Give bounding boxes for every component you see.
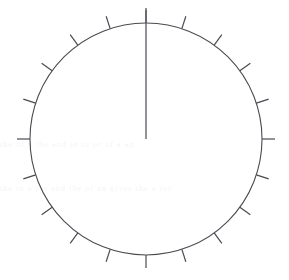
tick-mark [106, 249, 110, 261]
tick-mark [240, 207, 251, 215]
tick-mark [70, 233, 78, 244]
tick-mark [106, 16, 110, 28]
tick-mark [42, 63, 53, 71]
tick-mark [214, 35, 222, 46]
tick-mark [240, 63, 251, 71]
tick-mark [256, 175, 268, 179]
tick-mark [256, 99, 268, 103]
tick-mark [214, 233, 222, 244]
dial-diagram [0, 0, 289, 280]
tick-mark [23, 175, 35, 179]
tick-mark [182, 249, 186, 261]
tick-mark [23, 99, 35, 103]
tick-mark [42, 207, 53, 215]
dial-figure: the of a the and in to or of a an the in… [0, 0, 289, 280]
tick-mark [182, 16, 186, 28]
tick-mark [70, 35, 78, 46]
